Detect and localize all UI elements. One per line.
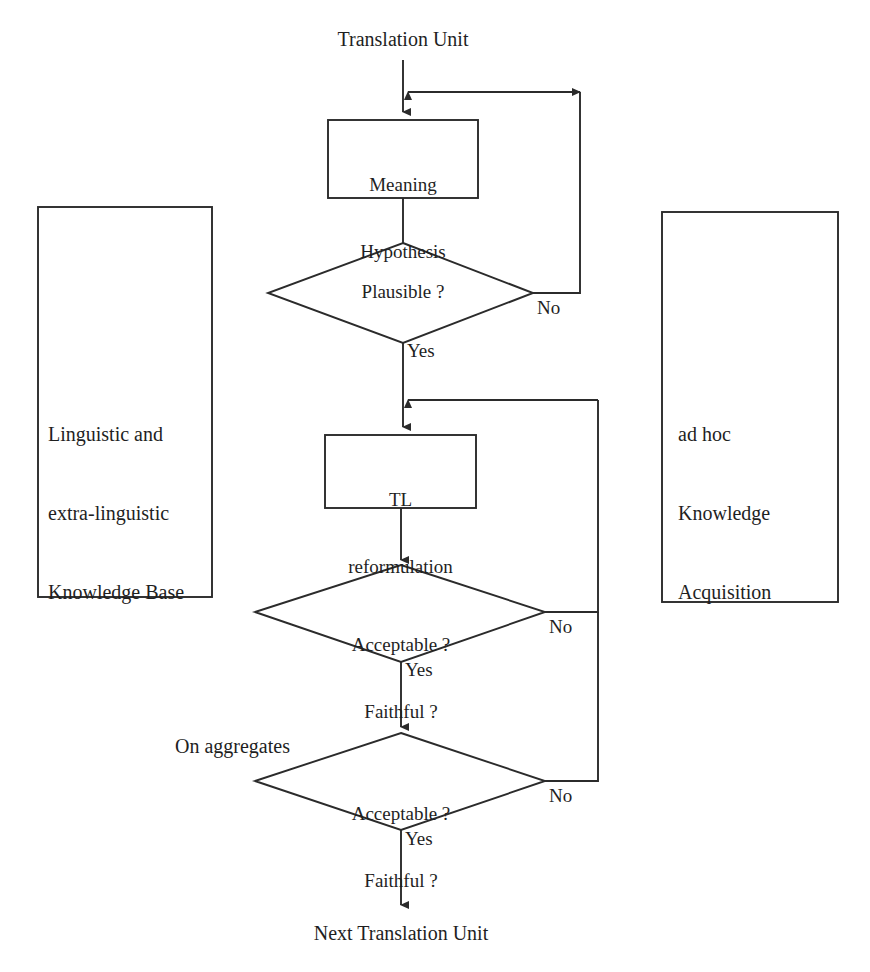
acceptable-faithful-2-label: Acceptable ? Faithful ? (311, 758, 491, 937)
plausible-label: Plausible ? (313, 281, 493, 303)
edge-accept1-no (545, 400, 598, 612)
acceptable-faithful-2-line2: Faithful ? (311, 870, 491, 892)
edge-plausible-no (533, 92, 580, 293)
left-panel-line1: Linguistic and (48, 421, 204, 447)
acceptable-faithful-2-line1: Acceptable ? (311, 803, 491, 825)
flowchart-canvas: Translation Unit Meaning Hypothesis Plau… (0, 0, 870, 972)
meaning-hypothesis-line2: Hypothesis (328, 241, 478, 263)
plausible-no-label: No (537, 297, 577, 319)
right-panel-label: ad hoc Knowledge Acquisition (678, 368, 838, 658)
right-panel-line3: Acquisition (678, 579, 838, 605)
left-panel-label: Linguistic and extra-linguistic Knowledg… (48, 368, 204, 658)
right-panel-line2: Knowledge (678, 500, 838, 526)
acceptable-faithful-2-no-label: No (549, 785, 589, 807)
tl-reformulation-line1: TL (325, 489, 476, 511)
tl-reformulation-line2: reformulation (325, 556, 476, 578)
acceptable-faithful-1-line1: Acceptable ? (311, 634, 491, 656)
acceptable-faithful-1-yes-label: Yes (405, 659, 445, 681)
right-panel-line1: ad hoc (678, 421, 838, 447)
entry-label: Translation Unit (303, 28, 503, 52)
acceptable-faithful-1-no-label: No (549, 616, 589, 638)
left-panel-line3: Knowledge Base (48, 579, 204, 605)
plausible-yes-label: Yes (407, 340, 447, 362)
meaning-hypothesis-line1: Meaning (328, 174, 478, 196)
on-aggregates-annotation: On aggregates (175, 735, 355, 759)
acceptable-faithful-2-yes-label: Yes (405, 828, 445, 850)
acceptable-faithful-1-line2: Faithful ? (311, 701, 491, 723)
exit-label: Next Translation Unit (271, 922, 531, 946)
left-panel-line2: extra-linguistic (48, 500, 204, 526)
